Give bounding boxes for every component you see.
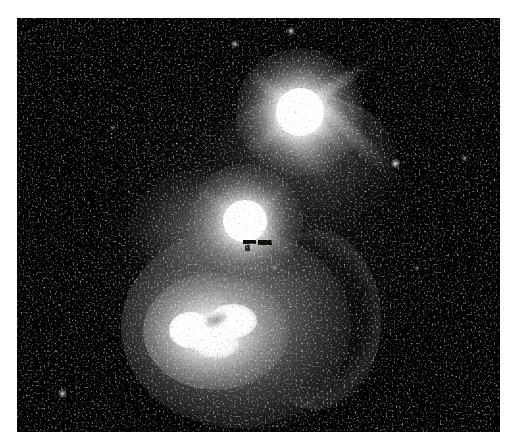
north-east-streak — [303, 53, 380, 110]
dark-notch-stub — [245, 245, 250, 251]
dark-notch-left — [243, 240, 256, 244]
south-east-streak — [311, 95, 411, 192]
outer-envelope-glow — [93, 58, 413, 430]
middle-nucleus-halo — [187, 164, 303, 280]
point-source-star-1 — [391, 159, 400, 168]
lower-knot-core-west — [169, 312, 211, 348]
screenshot-root — [0, 0, 514, 443]
middle-nucleus-spike-b — [196, 179, 295, 265]
upper-nucleus-halo — [236, 48, 364, 176]
upper-nucleus-core — [276, 88, 324, 136]
dark-notch-right — [258, 240, 272, 245]
upper-nucleus-spike-a — [243, 65, 358, 158]
image-frame-edge — [17, 18, 500, 432]
point-source-star-6 — [271, 264, 278, 271]
point-source-star-5 — [461, 155, 468, 162]
point-source-star-3 — [231, 40, 239, 48]
middle-nucleus-spike-a — [192, 183, 298, 259]
emission-bridge — [248, 76, 339, 187]
lower-knot-dark-lane — [202, 309, 231, 331]
detector-noise-bright — [17, 18, 500, 432]
halo-east-rim — [253, 230, 381, 410]
point-source-star-2 — [58, 389, 67, 398]
western-lobe-glow — [129, 168, 279, 288]
southern-halo-glow — [121, 228, 351, 428]
point-source-star-4 — [287, 27, 295, 35]
astronomical-image — [17, 18, 500, 432]
middle-nucleus-core — [223, 200, 267, 242]
upper-fan-glow — [213, 94, 399, 230]
lower-knot-core-south — [193, 330, 239, 358]
lower-knot-halo — [143, 272, 289, 390]
upper-nucleus-spike-b — [243, 65, 358, 158]
point-source-star-8 — [110, 125, 116, 131]
detector-noise-dark — [17, 18, 500, 432]
point-source-star-7 — [414, 265, 420, 271]
lower-knot-core-east — [209, 304, 257, 338]
